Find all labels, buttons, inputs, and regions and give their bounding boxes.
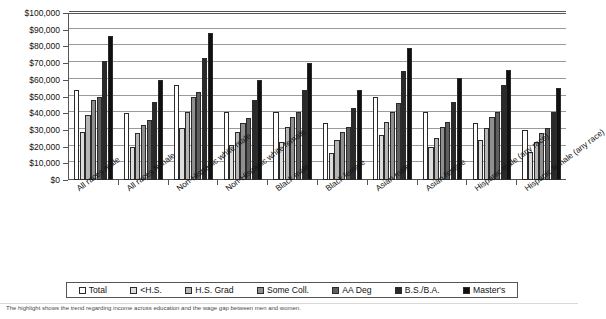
- x-axis-tick-mark: [118, 180, 119, 185]
- bar: [407, 48, 412, 180]
- y-axis-tick-label: $80,000: [0, 42, 60, 51]
- bar: [379, 135, 384, 180]
- legend-swatch: [395, 287, 402, 294]
- legend-item: Master's: [463, 286, 505, 295]
- x-axis-tick-mark: [317, 180, 318, 185]
- gridline: [69, 11, 566, 12]
- legend-label: H.S. Grad: [195, 286, 233, 295]
- bar-group: [174, 13, 213, 180]
- x-axis-tick-mark: [217, 180, 218, 185]
- bar-group: [473, 13, 512, 180]
- legend-swatch: [79, 287, 86, 294]
- x-axis-tick-mark: [417, 180, 418, 185]
- bar: [423, 112, 428, 180]
- bar-group: [74, 13, 113, 180]
- y-axis-tick-mark: [63, 180, 68, 181]
- bar: [384, 122, 389, 180]
- x-axis-tick-mark: [267, 180, 268, 185]
- bar: [174, 85, 179, 180]
- bar: [130, 147, 135, 180]
- y-axis-tick-label: $100,000: [0, 9, 60, 18]
- bar: [528, 152, 533, 180]
- legend-label: AA Deg: [342, 286, 371, 295]
- legend-item: AA Deg: [332, 286, 371, 295]
- x-axis-tick-mark: [168, 180, 169, 185]
- legend-label: <H.S.: [140, 286, 162, 295]
- bar: [478, 140, 483, 180]
- bar: [124, 113, 129, 180]
- bar-series-layer: [68, 13, 566, 180]
- bar: [484, 128, 489, 180]
- bar: [428, 147, 433, 180]
- caption-divider: [0, 303, 578, 304]
- bar-group: [124, 13, 163, 180]
- y-axis-tick-label: $40,000: [0, 109, 60, 118]
- bar: [285, 127, 290, 180]
- legend-item: Some Coll.: [257, 286, 309, 295]
- y-axis-tick-label: $50,000: [0, 93, 60, 102]
- bar: [185, 112, 190, 180]
- y-axis-tick-label: $60,000: [0, 76, 60, 85]
- legend-swatch: [185, 287, 192, 294]
- legend-swatch: [130, 287, 137, 294]
- bar: [74, 90, 79, 180]
- legend-swatch: [257, 287, 264, 294]
- x-axis-tick-mark: [466, 180, 467, 185]
- figure-caption: The highlight shows the trend regarding …: [6, 305, 572, 312]
- bar-group: [323, 13, 362, 180]
- bar: [85, 115, 90, 180]
- y-axis-tick-label: $70,000: [0, 59, 60, 68]
- chart-legend: Total<H.S.H.S. GradSome Coll.AA DegB.S./…: [66, 282, 518, 298]
- legend-swatch: [463, 287, 470, 294]
- x-axis-tick-mark: [516, 180, 517, 185]
- legend-item: H.S. Grad: [185, 286, 233, 295]
- bar: [323, 123, 328, 180]
- y-axis-tick-label: $0: [0, 176, 60, 185]
- bar: [307, 63, 312, 180]
- bar-group: [423, 13, 462, 180]
- legend-item: B.S./B.A.: [395, 286, 440, 295]
- legend-item: <H.S.: [130, 286, 162, 295]
- legend-label: Master's: [473, 286, 505, 295]
- y-axis-tick-label: $20,000: [0, 143, 60, 152]
- bar: [179, 128, 184, 180]
- legend-label: Total: [89, 286, 107, 295]
- legend-item: Total: [79, 286, 107, 295]
- bar: [329, 153, 334, 180]
- y-axis-tick-label: $10,000: [0, 159, 60, 168]
- legend-swatch: [332, 287, 339, 294]
- legend-label: B.S./B.A.: [405, 286, 440, 295]
- bar: [373, 97, 378, 181]
- bar: [135, 133, 140, 180]
- bar: [91, 100, 96, 180]
- y-axis-tick-label: $30,000: [0, 126, 60, 135]
- bar: [80, 132, 85, 180]
- legend-label: Some Coll.: [267, 286, 309, 295]
- bar: [473, 123, 478, 180]
- bar: [191, 97, 196, 181]
- bar-group: [373, 13, 412, 180]
- x-axis-tick-mark: [367, 180, 368, 185]
- y-axis-tick-label: $90,000: [0, 26, 60, 35]
